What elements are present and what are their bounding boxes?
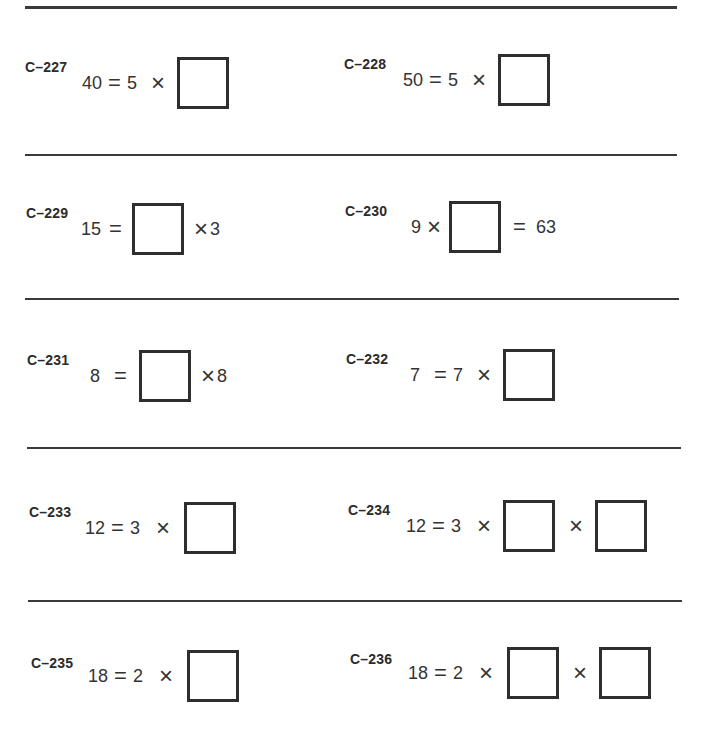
number: 9	[411, 217, 421, 238]
number: 15	[81, 219, 101, 240]
answer-box[interactable]	[449, 201, 501, 253]
times-sign: ×	[427, 213, 441, 241]
equals-sign: =	[434, 660, 447, 686]
number: 12	[406, 516, 426, 537]
answer-box[interactable]	[498, 54, 550, 106]
answer-box[interactable]	[503, 349, 555, 401]
number: 3	[451, 516, 461, 537]
problem-c235: 18 = 2 ×	[88, 650, 239, 702]
times-sign: ×	[573, 659, 587, 687]
problem-label: C–229	[26, 205, 68, 221]
answer-box[interactable]	[139, 350, 191, 402]
problem-label: C–232	[346, 351, 388, 367]
problem-c232: 7 = 7 ×	[410, 349, 555, 401]
equals-sign: =	[111, 515, 124, 541]
times-sign: ×	[472, 66, 486, 94]
number: 12	[85, 518, 105, 539]
number: 3	[130, 518, 140, 539]
times-sign: ×	[201, 362, 215, 390]
number: 8	[217, 366, 227, 387]
problem-c234: 12 = 3 × ×	[406, 500, 647, 552]
equals-sign: =	[114, 363, 127, 389]
problem-c230: 9 × = 63	[411, 201, 556, 253]
answer-box[interactable]	[595, 500, 647, 552]
answer-box[interactable]	[187, 650, 239, 702]
number: 18	[88, 666, 108, 687]
equals-sign: =	[429, 67, 442, 93]
times-sign: ×	[477, 361, 491, 389]
problem-label: C–236	[350, 651, 392, 667]
problem-c236: 18 = 2 × ×	[408, 647, 651, 699]
number: 18	[408, 663, 428, 684]
times-sign: ×	[151, 69, 165, 97]
answer-box[interactable]	[599, 647, 651, 699]
times-sign: ×	[477, 512, 491, 540]
problem-label: C–228	[344, 56, 386, 72]
problem-label: C–230	[345, 203, 387, 219]
times-sign: ×	[156, 514, 170, 542]
answer-box[interactable]	[184, 502, 236, 554]
equals-sign: =	[109, 216, 122, 242]
problem-c231: 8 = × 8	[90, 350, 227, 402]
answer-box[interactable]	[503, 500, 555, 552]
problem-c229: 15 = × 3	[81, 203, 220, 255]
answer-box[interactable]	[507, 647, 559, 699]
number: 5	[448, 70, 458, 91]
number: 40	[82, 73, 102, 94]
divider-3	[27, 447, 681, 449]
problem-label: C–227	[25, 59, 67, 75]
number: 63	[536, 217, 556, 238]
equals-sign: =	[513, 214, 526, 240]
answer-box[interactable]	[177, 57, 229, 109]
divider-top	[25, 6, 677, 9]
number: 2	[453, 663, 463, 684]
number: 7	[410, 365, 420, 386]
times-sign: ×	[479, 659, 493, 687]
times-sign: ×	[569, 512, 583, 540]
number: 3	[210, 219, 220, 240]
divider-2	[25, 298, 679, 300]
number: 50	[403, 70, 423, 91]
divider-1	[25, 154, 677, 156]
problem-c228: 50 = 5 ×	[403, 54, 550, 106]
number: 7	[453, 365, 463, 386]
equals-sign: =	[108, 70, 121, 96]
problem-label: C–234	[348, 502, 390, 518]
number: 2	[133, 666, 143, 687]
divider-4	[28, 600, 682, 602]
number: 5	[127, 73, 137, 94]
equals-sign: =	[434, 362, 447, 388]
equals-sign: =	[114, 663, 127, 689]
equals-sign: =	[432, 513, 445, 539]
problem-c227: 40 = 5 ×	[82, 57, 229, 109]
problem-c233: 12 = 3 ×	[85, 502, 236, 554]
problem-label: C–233	[29, 504, 71, 520]
problem-label: C–235	[31, 655, 73, 671]
problem-label: C–231	[27, 352, 69, 368]
times-sign: ×	[194, 215, 208, 243]
times-sign: ×	[159, 662, 173, 690]
answer-box[interactable]	[132, 203, 184, 255]
number: 8	[90, 366, 100, 387]
